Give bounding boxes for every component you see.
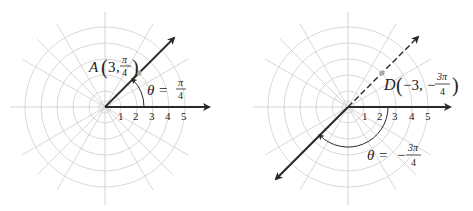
tick-1: 1 <box>118 110 124 122</box>
tick-3: 3 <box>392 110 398 122</box>
tick-4: 4 <box>165 110 171 122</box>
tick-4: 4 <box>409 110 415 122</box>
comma: , <box>116 59 120 75</box>
theta-eq: θ = <box>367 147 388 163</box>
point-r: 3 <box>108 59 116 75</box>
open-paren: ( <box>101 56 108 79</box>
open-paren: ( <box>396 74 403 97</box>
theta-num: π <box>178 77 184 88</box>
point-r: −3, <box>403 77 423 93</box>
point-theta-den: 4 <box>440 86 445 97</box>
right-polar-grid <box>253 12 450 205</box>
point-name: D <box>383 76 396 93</box>
point-theta-num: π <box>122 54 128 65</box>
point-theta-sign: − <box>427 77 435 93</box>
tick-5: 5 <box>425 110 431 122</box>
theta-label-left: θ = π 4 <box>147 77 186 101</box>
theta-sign: − <box>397 147 405 163</box>
close-paren: ) <box>132 56 139 79</box>
right-tick-labels: 1 2 3 4 5 <box>362 110 431 122</box>
theta-label-right: θ = − 3π 4 <box>367 142 421 168</box>
point-theta-den: 4 <box>122 67 127 78</box>
tick-2: 2 <box>133 110 139 122</box>
point-theta-num: 3π <box>436 71 448 82</box>
angle-ray-terminal <box>276 107 348 179</box>
close-paren: ) <box>452 74 459 97</box>
point-d-marker <box>379 70 384 75</box>
polar-diagrams: 1 2 3 4 5 A ( 3 , π 4 ) θ = π 4 <box>0 0 473 211</box>
tick-1: 1 <box>362 110 368 122</box>
theta-eq: θ = <box>147 82 168 98</box>
tick-3: 3 <box>149 110 155 122</box>
tick-5: 5 <box>181 110 187 122</box>
theta-num: 3π <box>407 142 419 153</box>
theta-den: 4 <box>411 157 416 168</box>
point-a-label: A ( 3 , π 4 ) <box>88 54 139 79</box>
left-polar-grid <box>10 12 209 205</box>
point-name: A <box>88 59 99 75</box>
theta-den: 4 <box>178 90 183 101</box>
tick-2: 2 <box>377 110 383 122</box>
